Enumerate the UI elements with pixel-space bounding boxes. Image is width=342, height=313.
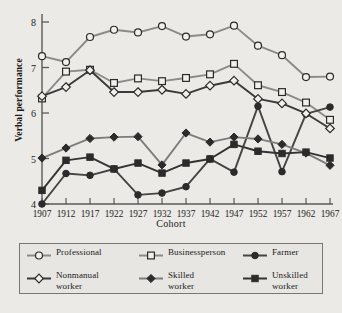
legend-item-label: Nonmanualworker	[56, 270, 99, 291]
line-chart: 4567819071912191719221927193219371942194…	[0, 0, 342, 232]
data-point-marker	[252, 252, 259, 259]
legend-item-label: Unskilledworker	[272, 270, 308, 291]
legend-marker	[27, 252, 51, 259]
legend-marker	[139, 274, 163, 282]
data-point-marker	[159, 23, 166, 30]
data-point-marker	[231, 141, 237, 147]
data-point-marker	[135, 29, 142, 36]
legend-item-label: Professional	[56, 247, 102, 258]
plot-area: 4567819071912191719221927193219371942194…	[0, 0, 342, 232]
data-point-marker	[87, 154, 93, 160]
data-point-marker	[255, 42, 262, 49]
legend-marker	[243, 252, 267, 259]
legend-item-label: Farmer	[272, 247, 299, 258]
data-point-marker	[279, 168, 286, 175]
data-point-marker	[39, 201, 46, 208]
data-point-marker	[159, 190, 166, 197]
data-point-marker	[327, 155, 333, 161]
legend-swatch	[242, 271, 268, 284]
legend-swatch	[26, 248, 52, 261]
data-point-marker	[327, 116, 334, 123]
data-point-marker	[303, 149, 309, 155]
data-point-marker	[87, 34, 94, 41]
data-point-marker	[147, 274, 155, 282]
data-point-marker	[110, 133, 118, 141]
legend-item[interactable]: Professional	[26, 247, 138, 270]
legend-item[interactable]: Businessperson	[138, 247, 242, 270]
legend-swatch	[26, 271, 52, 284]
data-point-marker	[279, 52, 286, 59]
figure: 4567819071912191719221927193219371942194…	[0, 0, 342, 313]
data-point-marker	[326, 161, 334, 169]
x-axis-title: Cohort	[0, 218, 342, 229]
data-point-marker	[135, 160, 141, 166]
data-point-marker	[159, 78, 166, 85]
data-point-marker	[230, 133, 238, 141]
data-point-marker	[326, 124, 335, 133]
legend-item[interactable]: Skilledworker	[138, 270, 242, 293]
data-point-marker	[231, 169, 238, 176]
data-point-marker	[182, 90, 191, 99]
legend-swatch-icon	[242, 272, 268, 285]
legend-swatch	[138, 271, 164, 284]
data-point-marker	[279, 150, 285, 156]
y-axis-tick-label: 7	[31, 63, 36, 74]
data-point-marker	[207, 31, 214, 38]
data-point-marker	[135, 192, 142, 199]
data-point-marker	[148, 252, 155, 259]
legend-swatch-icon	[138, 249, 164, 262]
data-point-marker	[206, 138, 214, 146]
data-point-marker	[302, 109, 311, 118]
legend-item[interactable]: Unskilledworker	[242, 270, 330, 293]
data-point-marker	[206, 81, 215, 90]
data-point-marker	[63, 170, 70, 177]
data-point-marker	[254, 135, 262, 143]
data-point-marker	[63, 157, 69, 163]
legend-grid: ProfessionalBusinesspersonFarmerNonmanua…	[20, 244, 322, 293]
data-point-marker	[327, 73, 334, 80]
data-point-marker	[279, 89, 286, 96]
data-point-marker	[252, 275, 258, 281]
legend-swatch-icon	[26, 272, 52, 285]
legend-swatch-icon	[138, 272, 164, 285]
y-axis-tick-label: 8	[31, 17, 36, 28]
data-point-marker	[183, 160, 189, 166]
data-point-marker	[278, 140, 286, 148]
legend-swatch	[242, 248, 268, 261]
data-point-marker	[255, 148, 261, 154]
data-point-marker	[87, 172, 94, 179]
legend-item[interactable]: Nonmanualworker	[26, 270, 138, 293]
legend-item[interactable]: Farmer	[242, 247, 330, 270]
data-point-marker	[183, 33, 190, 40]
y-axis-title: Verbal performance	[14, 30, 24, 170]
data-point-marker	[278, 99, 287, 108]
data-point-marker	[207, 156, 213, 162]
legend-item-label: Skilledworker	[168, 270, 194, 291]
legend-marker	[27, 274, 51, 283]
data-point-marker	[159, 170, 165, 176]
y-axis-tick-label: 6	[31, 108, 36, 119]
data-point-marker	[303, 74, 310, 81]
data-point-marker	[39, 187, 45, 193]
legend-marker	[139, 252, 163, 259]
data-point-marker	[134, 88, 143, 97]
data-point-marker	[135, 75, 142, 82]
data-point-marker	[63, 68, 70, 75]
legend-swatch	[138, 248, 164, 261]
data-point-marker	[231, 60, 238, 67]
data-point-marker	[231, 22, 238, 29]
data-point-marker	[36, 252, 43, 259]
legend-item-label: Businessperson	[168, 247, 225, 258]
legend-swatch-icon	[26, 249, 52, 262]
data-point-marker	[35, 274, 44, 283]
data-point-marker	[62, 144, 70, 152]
data-point-marker	[183, 183, 190, 190]
legend-marker	[243, 275, 267, 281]
data-point-marker	[111, 80, 118, 87]
data-point-marker	[38, 154, 46, 162]
data-point-marker	[63, 59, 70, 66]
data-point-marker	[183, 75, 190, 82]
chart-legend: ProfessionalBusinesspersonFarmerNonmanua…	[19, 243, 323, 294]
data-point-marker	[207, 71, 214, 78]
y-axis-tick-label: 5	[31, 154, 36, 165]
